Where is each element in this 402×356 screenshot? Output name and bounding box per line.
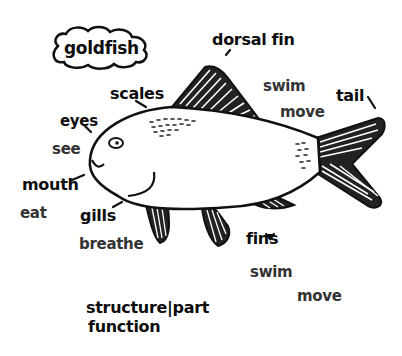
label-dorsal-fin-function-move: move (280, 103, 325, 121)
label-fins-function-swim: swim (250, 263, 292, 281)
label-mouth-function-eat: eat (20, 204, 47, 222)
label-gills-function-breathe: breathe (79, 235, 143, 253)
legend-function: function (88, 317, 160, 336)
label-dorsal-fin-function-swim: swim (263, 77, 305, 95)
label-tail: tail (336, 86, 364, 105)
legend-structure-part: structure|part (86, 298, 209, 317)
label-eyes-function-see: see (52, 140, 80, 158)
label-dorsal-fin: dorsal fin (212, 30, 295, 49)
label-scales: scales (110, 84, 164, 103)
label-mouth: mouth (22, 175, 79, 194)
fish-body (90, 107, 320, 209)
label-gills: gills (80, 206, 116, 225)
label-fins: fins (246, 229, 278, 248)
tail-fin (316, 118, 385, 208)
diagram-title: goldfish (64, 38, 139, 58)
label-eyes: eyes (60, 112, 98, 130)
label-fins-function-move: move (297, 287, 342, 305)
